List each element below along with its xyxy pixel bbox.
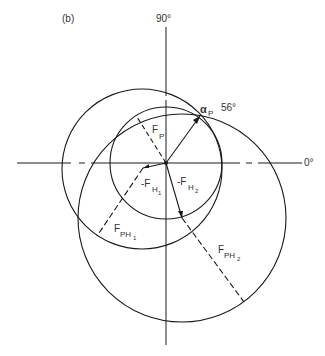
neg-fh2-sub: H — [188, 183, 194, 192]
alpha-subscript: P — [208, 109, 213, 118]
neg-fh1-subsub: 1 — [158, 190, 162, 196]
fp-main: F — [152, 124, 158, 135]
panel-label: (b) — [62, 13, 74, 24]
neg-fh2-vector — [166, 163, 182, 218]
harker-construction-diagram: (b) 90° 0° α P 56° F P -F H 1 -F H 2 F P… — [0, 0, 325, 356]
neg-fh2-label: -F H 2 — [177, 176, 199, 194]
alpha-symbol: α — [200, 103, 207, 115]
fp-label: F P — [152, 124, 164, 141]
alpha-p-label: α P 56° — [200, 102, 236, 118]
origin-dot — [164, 161, 168, 165]
axis-label-90: 90° — [156, 13, 171, 24]
fph1-label: F PH 1 — [114, 223, 137, 241]
neg-fh2-main: -F — [177, 176, 186, 187]
fph2-vector — [182, 218, 244, 302]
fph1-subsub: 1 — [133, 235, 137, 241]
fph2-subsub: 2 — [237, 256, 241, 262]
fp-solid-vector — [166, 116, 200, 163]
fp-sub: P — [159, 132, 164, 141]
neg-fh2-subsub: 2 — [195, 188, 199, 194]
fph2-sub: PH — [224, 251, 235, 260]
neg-fh1-label: -F H 1 — [141, 178, 162, 196]
fph2-label: F PH 2 — [218, 244, 241, 262]
fph1-sub: PH — [120, 230, 131, 239]
angle-value: 56° — [221, 102, 236, 113]
neg-fh1-main: -F — [141, 178, 150, 189]
axis-label-0: 0° — [304, 157, 314, 168]
arrowhead-icon — [193, 116, 200, 124]
axes — [17, 27, 302, 345]
